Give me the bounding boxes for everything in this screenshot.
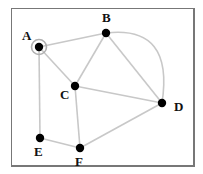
node-dot — [71, 82, 79, 90]
edge-a-b — [39, 33, 106, 47]
graph-canvas: ABCDEF — [0, 0, 203, 174]
node-label: C — [60, 87, 69, 102]
node-f: F — [75, 144, 84, 169]
edge-a-e — [39, 47, 40, 138]
node-e: E — [34, 134, 44, 159]
node-label: E — [34, 144, 43, 159]
node-label: D — [174, 99, 183, 114]
node-dot — [36, 134, 44, 142]
edge-b-d — [106, 33, 162, 103]
edge-f-d — [80, 103, 162, 148]
node-dot — [35, 43, 43, 51]
node-dot — [158, 99, 166, 107]
node-dot — [76, 144, 84, 152]
node-label: B — [102, 10, 111, 25]
edge-b-c — [75, 33, 106, 86]
node-dot — [102, 29, 110, 37]
node-b: B — [102, 10, 111, 37]
node-label: F — [75, 154, 83, 169]
edge-c-f — [75, 86, 80, 148]
edge-e-f — [40, 138, 80, 148]
node-d: D — [158, 99, 184, 114]
node-label: A — [22, 28, 32, 43]
edge-c-d — [75, 86, 162, 103]
